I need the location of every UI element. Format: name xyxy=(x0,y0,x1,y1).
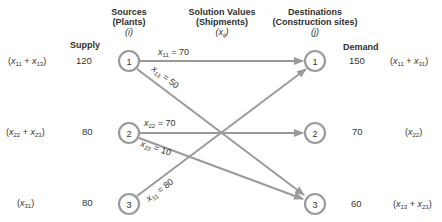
source-node-1: 1 xyxy=(119,51,139,71)
edge-label-x22: x22 = 70 xyxy=(143,118,175,129)
edge-label-x31: x31 = 80 xyxy=(143,177,176,205)
transport-network: x11 = 70 x13 = 50 x22 = 70 x23 = 10 x31 … xyxy=(0,0,442,222)
edge-label-x11: x11 = 70 xyxy=(157,47,189,58)
svg-text:1: 1 xyxy=(126,57,131,67)
svg-text:2: 2 xyxy=(126,129,131,139)
svg-text:3: 3 xyxy=(126,200,131,210)
dest-node-2: 2 xyxy=(305,123,325,143)
edge-label-x23: x23 = 10 xyxy=(138,138,172,158)
dest-node-1: 1 xyxy=(305,51,325,71)
source-node-3: 3 xyxy=(119,194,139,214)
svg-text:3: 3 xyxy=(312,200,317,210)
dest-node-3: 3 xyxy=(305,194,325,214)
svg-text:2: 2 xyxy=(312,129,317,139)
svg-text:1: 1 xyxy=(312,57,317,67)
edge-label-x13: x13 = 50 xyxy=(148,63,181,91)
source-node-2: 2 xyxy=(119,123,139,143)
